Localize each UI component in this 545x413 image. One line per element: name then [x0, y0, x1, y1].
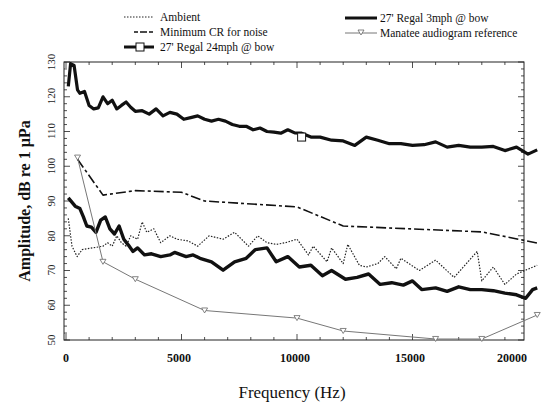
series-manatee-line: [78, 158, 538, 339]
series-layer: [68, 64, 540, 342]
x-tick-labels: 0 5000 10000 15000 20000: [63, 351, 527, 365]
triangle-marker-icon: [132, 277, 138, 282]
series-ambient-line: [68, 218, 537, 284]
y-tick-label: 50: [45, 334, 57, 346]
triangle-marker-icon: [534, 312, 540, 317]
y-tick-label: 120: [45, 87, 57, 104]
x-tick-label: 10000: [280, 351, 310, 365]
x-tick-label: 5000: [167, 351, 191, 365]
axis-ticks: [64, 62, 524, 340]
square-marker-icon: [298, 133, 306, 141]
legend-label-regal-24: 27' Regal 24mph @ bow: [160, 41, 275, 54]
y-tick-label: 70: [45, 264, 57, 276]
legend-item-min-cr: Minimum CR for noise: [134, 26, 268, 38]
square-marker-icon: [136, 43, 144, 51]
x-tick-label: 0: [63, 351, 69, 365]
legend: Ambient Minimum CR for noise 27' Regal 2…: [124, 11, 517, 54]
plot-frame: [64, 62, 524, 340]
triangle-marker-icon: [100, 259, 106, 264]
series-regal-3-line: [68, 198, 537, 298]
legend-label-min-cr: Minimum CR for noise: [160, 26, 268, 38]
x-tick-label: 20000: [497, 351, 527, 365]
x-axis-title: Frequency (Hz): [238, 383, 345, 402]
legend-label-regal-3: 27' Regal 3mph @ bow: [380, 12, 489, 25]
legend-item-regal-3: 27' Regal 3mph @ bow: [345, 12, 489, 25]
legend-item-manatee: Manatee audiogram reference: [345, 27, 517, 40]
y-tick-label: 60: [45, 299, 57, 311]
series-min-cr-line: [78, 159, 538, 243]
frequency-amplitude-chart: Ambient Minimum CR for noise 27' Regal 2…: [0, 0, 545, 413]
y-tick-label: 90: [45, 195, 57, 207]
legend-label-ambient: Ambient: [160, 11, 201, 23]
legend-item-regal-24: 27' Regal 24mph @ bow: [124, 41, 275, 54]
y-axis-title: Amplitude, dB re 1 µPa: [16, 120, 34, 281]
legend-item-ambient: Ambient: [124, 11, 201, 23]
triangle-marker-icon: [75, 155, 81, 160]
y-tick-label: 100: [45, 157, 57, 174]
y-tick-label: 130: [45, 53, 57, 70]
y-tick-labels: 50 60 70 80 90 100 110 120 130: [45, 53, 57, 345]
x-tick-label: 15000: [395, 351, 425, 365]
legend-label-manatee: Manatee audiogram reference: [380, 27, 517, 40]
y-tick-label: 110: [45, 122, 57, 139]
y-tick-label: 80: [45, 230, 57, 242]
